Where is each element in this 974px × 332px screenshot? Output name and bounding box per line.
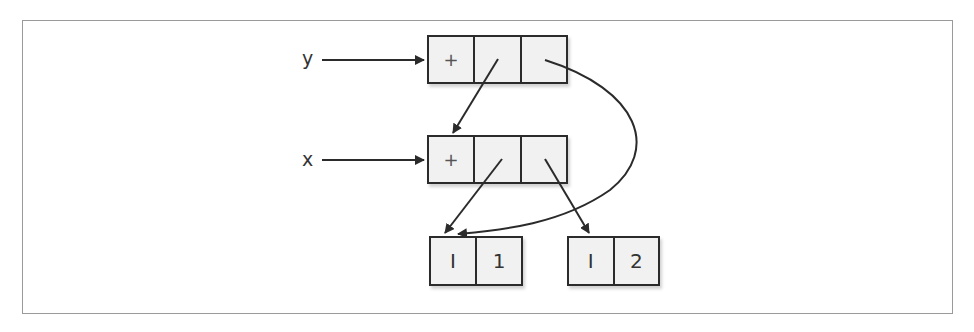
arrow-node-y-to-int-1 (458, 60, 637, 234)
arrow-node-x-left-to-int-1 (445, 159, 502, 233)
arrows-layer (0, 0, 974, 332)
arrow-node-x-right-to-int-2 (545, 159, 589, 233)
arrow-node-y-to-node-x (453, 59, 498, 133)
